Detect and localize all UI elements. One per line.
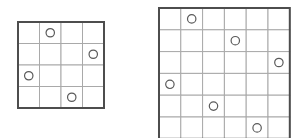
right-board — [157, 6, 292, 138]
grid-cell[interactable] — [224, 117, 246, 138]
grid-diagram-figure — [0, 0, 305, 138]
grid-cell[interactable] — [18, 22, 40, 44]
left-board-cells — [18, 22, 104, 108]
grid-cell[interactable] — [203, 30, 225, 52]
grid-cell[interactable] — [246, 8, 268, 30]
grid-cell[interactable] — [268, 117, 290, 138]
marker-circle-icon[interactable] — [231, 36, 239, 44]
marker-circle-icon[interactable] — [68, 93, 76, 101]
grid-cell[interactable] — [203, 73, 225, 95]
grid-cell[interactable] — [246, 52, 268, 74]
marker-circle-icon[interactable] — [187, 15, 195, 23]
marker-circle-icon[interactable] — [166, 80, 174, 88]
left-board — [16, 20, 106, 110]
marker-circle-icon[interactable] — [89, 50, 97, 58]
marker-circle-icon[interactable] — [25, 72, 33, 80]
grid-cell[interactable] — [61, 44, 83, 66]
grid-cell[interactable] — [61, 22, 83, 44]
grid-cell[interactable] — [203, 117, 225, 138]
right-board-cells — [159, 8, 290, 138]
grid-cell[interactable] — [159, 30, 181, 52]
grid-cell[interactable] — [246, 73, 268, 95]
grid-cell[interactable] — [181, 95, 203, 117]
grid-cell[interactable] — [268, 73, 290, 95]
grid-cell[interactable] — [40, 65, 62, 87]
grid-cell[interactable] — [159, 52, 181, 74]
grid-cell[interactable] — [224, 52, 246, 74]
left-board-svg — [16, 20, 106, 110]
grid-cell[interactable] — [181, 52, 203, 74]
grid-cell[interactable] — [159, 8, 181, 30]
grid-cell[interactable] — [224, 73, 246, 95]
grid-cell[interactable] — [181, 73, 203, 95]
grid-cell[interactable] — [18, 87, 40, 109]
marker-circle-icon[interactable] — [253, 124, 261, 132]
grid-cell[interactable] — [268, 8, 290, 30]
grid-cell[interactable] — [268, 95, 290, 117]
grid-cell[interactable] — [246, 30, 268, 52]
marker-circle-icon[interactable] — [46, 29, 54, 37]
grid-cell[interactable] — [224, 95, 246, 117]
grid-cell[interactable] — [83, 65, 105, 87]
marker-circle-icon[interactable] — [275, 58, 283, 66]
grid-cell[interactable] — [159, 95, 181, 117]
grid-cell[interactable] — [61, 65, 83, 87]
grid-cell[interactable] — [181, 30, 203, 52]
grid-cell[interactable] — [268, 30, 290, 52]
grid-cell[interactable] — [40, 44, 62, 66]
grid-cell[interactable] — [40, 87, 62, 109]
grid-cell[interactable] — [83, 22, 105, 44]
marker-circle-icon[interactable] — [209, 102, 217, 110]
grid-cell[interactable] — [83, 87, 105, 109]
grid-cell[interactable] — [246, 95, 268, 117]
grid-cell[interactable] — [224, 8, 246, 30]
grid-cell[interactable] — [203, 52, 225, 74]
grid-cell[interactable] — [18, 44, 40, 66]
grid-cell[interactable] — [203, 8, 225, 30]
right-board-svg — [157, 6, 292, 138]
grid-cell[interactable] — [159, 117, 181, 138]
grid-cell[interactable] — [181, 117, 203, 138]
